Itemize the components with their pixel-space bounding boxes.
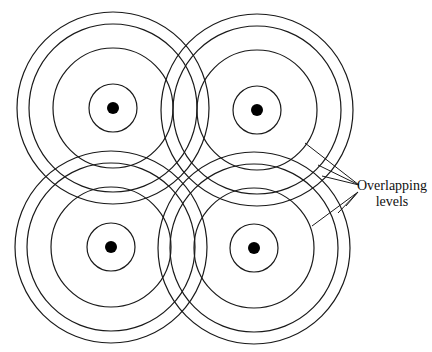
label-line-2: levels xyxy=(357,194,427,210)
concentric-circles-figure xyxy=(0,0,432,352)
overlapping-levels-diagram: Overlapping levels xyxy=(0,0,432,352)
leader-line xyxy=(338,192,358,213)
center-dot xyxy=(248,242,260,254)
cell-top-left xyxy=(17,12,209,204)
overlapping-levels-label: Overlapping levels xyxy=(357,178,427,210)
center-dot xyxy=(107,102,119,114)
center-dot xyxy=(251,104,263,116)
center-dot xyxy=(105,241,117,253)
cell-bottom-left xyxy=(15,151,207,343)
label-line-1: Overlapping xyxy=(357,178,427,194)
